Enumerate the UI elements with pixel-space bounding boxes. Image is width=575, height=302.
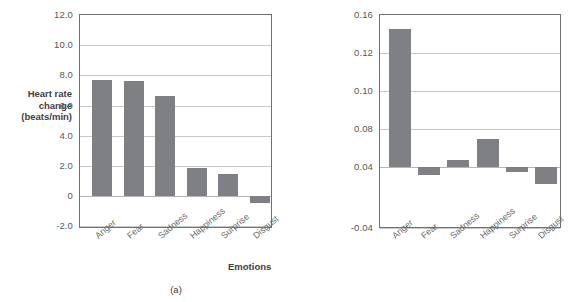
y-tick-label: 2.0 [29,159,73,170]
bar-happiness [187,168,207,196]
gridline [80,75,271,76]
y-tick-label: 8.0 [29,69,73,80]
bar-sadness [155,96,175,196]
gridline [80,45,271,46]
bar-fear [418,167,440,175]
bar-surprise [218,174,238,196]
bar-surprise [506,167,528,172]
y-tick-label: 0.04 [327,160,373,171]
bar-happiness [477,139,499,167]
gridline [380,167,560,168]
y-tick-label: 12.0 [29,9,73,20]
x-axis-title: Emotions [228,261,271,272]
y-tick-label: -2.0 [29,220,73,231]
bar-anger [389,29,411,167]
y-tick-label: 0.10 [327,84,373,95]
y-tick-label: 0.16 [327,9,373,20]
bar-anger [92,80,112,196]
bar-disgust [250,196,270,203]
panel-a: Heart rate change (beats/min) 12.010.08.… [0,0,288,302]
emotion-physiology-figure: Heart rate change (beats/min) 12.010.08.… [0,0,575,302]
y-tick-label: 0 [29,190,73,201]
y-tick-label: 0.12 [327,47,373,58]
y-tick-label: 4.0 [29,129,73,140]
y-tick-label: 6.0 [29,99,73,110]
y-tick-label: 10.0 [29,39,73,50]
panel-a-caption: (a) [146,284,206,295]
gridline [80,196,271,197]
bar-sadness [447,160,469,167]
bar-disgust [535,167,557,184]
bar-fear [124,81,144,196]
panel-b-plot-area [379,14,561,228]
panel-a-plot-area [79,14,272,228]
y-tick-label: -0.04 [327,221,373,232]
panel-b: Galvanic skin response (degrees) 0.160.1… [288,0,575,302]
y-tick-label: 0.08 [327,123,373,134]
